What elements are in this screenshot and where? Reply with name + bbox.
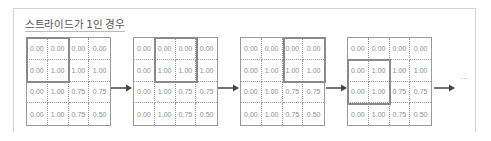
matrix-cell: 1.00: [262, 103, 283, 125]
matrix-cell: 0.75: [69, 82, 90, 104]
input-matrix-step-2: 0.000.000.000.000.001.001.001.000.001.00…: [133, 37, 218, 126]
matrix-cell: 0.00: [390, 38, 411, 60]
matrix-cell: 1.00: [155, 82, 176, 104]
matrix-cell: 0.00: [241, 82, 262, 104]
input-matrix-step-3: 0.000.000.000.000.001.001.001.000.001.00…: [240, 37, 325, 126]
matrix-cell: 0.00: [134, 103, 155, 125]
matrix-cell: 0.00: [89, 38, 110, 60]
matrix-cell: 0.00: [27, 38, 48, 60]
matrix-cell: 0.75: [283, 82, 304, 104]
matrix-cell: 0.75: [196, 82, 217, 104]
matrix-cell: 0.00: [134, 82, 155, 104]
matrix-cell: 0.00: [241, 60, 262, 82]
matrix-cell: 0.00: [348, 38, 369, 60]
matrix-cell: 1.00: [369, 60, 390, 82]
matrix-cell: 1.00: [48, 103, 69, 125]
matrix-cell: 0.00: [348, 103, 369, 125]
matrix-cell: 1.00: [155, 60, 176, 82]
matrix-cell: 1.00: [196, 60, 217, 82]
matrix-cell: 0.00: [369, 38, 390, 60]
diagram-title: 스트라이드가 1인 경우: [25, 18, 125, 32]
matrix-cell: 0.00: [303, 38, 324, 60]
matrix-cell: 1.00: [176, 60, 197, 82]
right-arrow-icon: [218, 77, 240, 85]
matrix-cell: 0.00: [348, 82, 369, 104]
right-arrow-icon: [326, 77, 348, 85]
matrix-cell: 0.75: [410, 82, 431, 104]
matrix-cell: 1.00: [303, 60, 324, 82]
input-matrix-step-4: 0.000.000.000.000.001.001.001.000.001.00…: [347, 37, 432, 126]
matrix-cell: 0.50: [196, 103, 217, 125]
matrix-cell: 0.00: [48, 38, 69, 60]
matrix-cell: 0.00: [241, 38, 262, 60]
matrix-cell: 1.00: [69, 60, 90, 82]
matrix-cell: 0.00: [155, 38, 176, 60]
matrix-cell: 0.00: [241, 103, 262, 125]
matrix-cell: 0.00: [196, 38, 217, 60]
matrix-cell: 1.00: [283, 60, 304, 82]
matrix-cell: 0.75: [176, 103, 197, 125]
matrix-cell: 1.00: [410, 60, 431, 82]
matrix-cell: 1.00: [89, 60, 110, 82]
continuation-ellipsis: ···: [461, 75, 469, 84]
input-matrix-step-1: 0.000.000.000.000.001.001.001.000.001.00…: [26, 37, 111, 126]
matrix-cell: 1.00: [390, 60, 411, 82]
matrix-cell: 0.50: [303, 103, 324, 125]
matrix-cell: 1.00: [262, 82, 283, 104]
matrix-cell: 1.00: [262, 60, 283, 82]
matrix-cell: 0.00: [176, 38, 197, 60]
matrix-cell: 0.00: [410, 38, 431, 60]
matrix-cell: 0.75: [390, 82, 411, 104]
matrix-cell: 0.00: [27, 60, 48, 82]
matrix-cell: 1.00: [369, 82, 390, 104]
matrix-cell: 1.00: [369, 103, 390, 125]
matrix-cell: 0.00: [27, 103, 48, 125]
matrix-cell: 0.75: [69, 103, 90, 125]
matrix-cell: 0.00: [134, 60, 155, 82]
matrix-cell: 0.00: [348, 60, 369, 82]
matrix-cell: 0.00: [134, 38, 155, 60]
matrix-cell: 0.75: [390, 103, 411, 125]
matrix-cell: 1.00: [48, 60, 69, 82]
right-arrow-icon: [434, 77, 456, 85]
matrix-cell: 0.00: [27, 82, 48, 104]
matrix-cell: 0.50: [410, 103, 431, 125]
matrix-cell: 0.00: [69, 38, 90, 60]
right-arrow-icon: [111, 77, 133, 85]
matrix-cell: 0.50: [89, 103, 110, 125]
matrix-cell: 0.00: [283, 38, 304, 60]
matrix-cell: 0.75: [176, 82, 197, 104]
matrix-cell: 1.00: [48, 82, 69, 104]
matrix-cell: 1.00: [155, 103, 176, 125]
matrix-cell: 0.00: [262, 38, 283, 60]
matrix-cell: 0.75: [89, 82, 110, 104]
matrix-cell: 0.75: [283, 103, 304, 125]
matrix-cell: 0.75: [303, 82, 324, 104]
